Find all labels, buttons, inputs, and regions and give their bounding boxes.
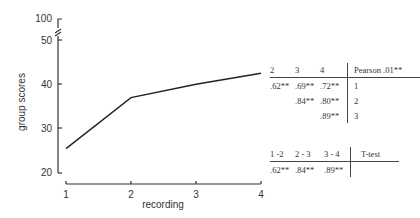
x-axis: [66, 181, 261, 184]
pearson-cell: [270, 93, 295, 108]
svg-text:30: 30: [41, 123, 53, 134]
data-line: [66, 73, 261, 148]
ttest-cell: [351, 162, 400, 178]
ttest-table: 1 -2 2 - 3 3 - 4 T-test .62** .84** .89*…: [270, 147, 399, 177]
pearson-header-row: 2 3 4 Pearson .01**: [270, 63, 420, 78]
pearson-cell: .80**: [320, 93, 348, 108]
ttest-col-1-2: 1 -2: [270, 147, 295, 162]
ttest-title: T-test: [351, 147, 400, 162]
pearson-col-2: 2: [270, 63, 295, 78]
pearson-cell: .69**: [295, 78, 320, 94]
pearson-col-3: 3: [295, 63, 320, 78]
pearson-title: Pearson .01**: [348, 63, 420, 78]
pearson-table: 2 3 4 Pearson .01** .62** .69** .72** 1 …: [270, 63, 420, 123]
ttest-col-2-3: 2 - 3: [295, 147, 324, 162]
svg-text:50: 50: [41, 35, 53, 46]
svg-text:100: 100: [35, 13, 52, 24]
svg-text:20: 20: [41, 167, 53, 178]
svg-text:2: 2: [128, 189, 134, 200]
ttest-cell: .62**: [270, 162, 295, 178]
pearson-cell: [270, 108, 295, 123]
pearson-row: .62** .69** .72** 1: [270, 78, 420, 94]
pearson-row-label: 2: [348, 93, 420, 108]
ttest-cell: .89**: [324, 162, 351, 178]
pearson-cell: .84**: [295, 93, 320, 108]
y-tick-labels: 20 30 40 50 100: [35, 13, 52, 178]
svg-text:3: 3: [193, 189, 199, 200]
ttest-header-row: 1 -2 2 - 3 3 - 4 T-test: [270, 147, 399, 162]
y-axis: [55, 19, 62, 173]
pearson-cell: .62**: [270, 78, 295, 94]
x-axis-label: recording: [142, 199, 184, 210]
ttest-cell: .84**: [295, 162, 324, 178]
svg-text:1: 1: [63, 189, 69, 200]
pearson-row: .89** 3: [270, 108, 420, 123]
y-axis-label: group scores: [16, 73, 27, 131]
svg-text:40: 40: [41, 79, 53, 90]
pearson-row-label: 1: [348, 78, 420, 94]
pearson-cell: .72**: [320, 78, 348, 94]
pearson-cell: [295, 108, 320, 123]
svg-text:4: 4: [258, 189, 264, 200]
pearson-row-label: 3: [348, 108, 420, 123]
pearson-col-4: 4: [320, 63, 348, 78]
ttest-col-3-4: 3 - 4: [324, 147, 351, 162]
pearson-cell: .89**: [320, 108, 348, 123]
pearson-row: .84** .80** 2: [270, 93, 420, 108]
ttest-row: .62** .84** .89**: [270, 162, 399, 178]
